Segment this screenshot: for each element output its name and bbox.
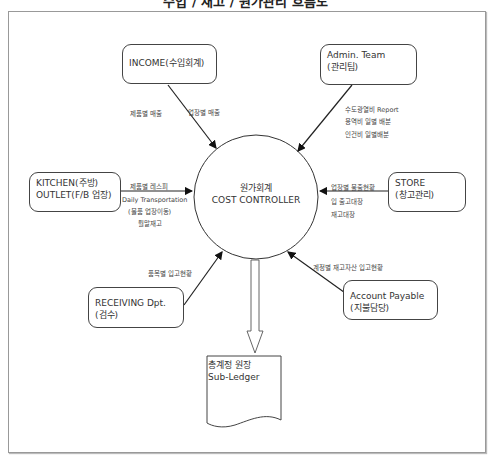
arrow-receiving — [184, 252, 222, 305]
center-label-en: COST CONTROLLER — [194, 194, 318, 206]
payable-sublabel: (지불담당) — [350, 302, 431, 314]
label-admin-service: 용역비 일별 배분 — [345, 116, 391, 126]
label-kitchen-monthend: 월말재고 — [138, 218, 162, 228]
payable-label: Account Payable — [350, 290, 431, 302]
receiving-box: RECEIVING Dpt. (검수) — [88, 287, 184, 328]
receiving-label: RECEIVING Dpt. — [95, 297, 177, 309]
label-store-stock: 재고대장 — [331, 209, 355, 219]
income-box: INCOME(수입회계) — [122, 44, 217, 84]
label-kitchen-recipe: 제품별 레스피 — [130, 181, 168, 191]
cost-controller: 원가회계 COST CONTROLLER — [194, 182, 318, 206]
arrow-admin — [298, 85, 352, 151]
outlet-label: OUTLET(F/B 업장) — [36, 189, 114, 201]
account-payable-box: Account Payable (지불담당) — [343, 280, 438, 320]
kitchen-box: KITCHEN(주방) OUTLET(F/B 업장) — [29, 172, 121, 212]
kitchen-label: KITCHEN(주방) — [36, 177, 114, 189]
receiving-sublabel: (검수) — [95, 309, 177, 321]
diagram-connectors — [0, 0, 491, 458]
admin-team-box: Admin. Team (관리팀) — [320, 44, 417, 85]
label-kitchen-transfer: (물품 업장이동) — [128, 206, 171, 216]
store-box: STORE (창고관리) — [388, 172, 466, 212]
sub-ledger-document: 총계정 원장 Sub-Ledger — [208, 359, 259, 383]
label-income-product-sales: 제품별 매출 — [130, 108, 162, 118]
income-label: INCOME(수입회계) — [129, 57, 210, 69]
ledger-label-kr: 총계정 원장 — [208, 359, 259, 371]
store-sublabel: (창고관리) — [395, 189, 459, 201]
ledger-label-en: Sub-Ledger — [208, 371, 259, 383]
admin-label: Admin. Team — [327, 49, 410, 61]
label-admin-utility: 수도광열비 Report — [345, 104, 399, 114]
admin-sublabel: (관리팀) — [327, 61, 410, 73]
hollow-down-arrow — [247, 260, 263, 353]
label-admin-labor: 인건비 일별배분 — [345, 129, 389, 139]
store-label: STORE — [395, 177, 459, 189]
label-store-issue: 업장별 불출현황 — [331, 182, 375, 192]
label-store-inout: 입 출고대장 — [331, 196, 363, 206]
label-kitchen-transport: Daily Transportation — [122, 196, 187, 204]
label-payable-accounts: 계정별 재고자산 입고현황 — [313, 262, 383, 272]
label-income-outlet-sales: 업장별 매출 — [188, 107, 220, 117]
label-receiving-items: 품목별 입고현황 — [148, 268, 192, 278]
center-label-kr: 원가회계 — [194, 182, 318, 194]
